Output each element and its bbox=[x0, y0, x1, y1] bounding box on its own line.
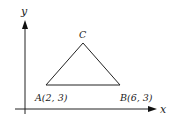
y-axis-arrow-icon bbox=[22, 20, 28, 29]
x-axis-arrow-icon bbox=[148, 106, 157, 112]
y-axis-label: y bbox=[20, 5, 28, 18]
triangle-abc bbox=[46, 43, 120, 85]
point-c-label: C bbox=[79, 29, 87, 40]
point-b-label: B(6, 3) bbox=[119, 92, 153, 103]
coordinate-diagram: y x C A(2, 3) B(6, 3) bbox=[0, 0, 172, 122]
x-axis-label: x bbox=[160, 103, 167, 116]
point-a-label: A(2, 3) bbox=[34, 92, 68, 103]
